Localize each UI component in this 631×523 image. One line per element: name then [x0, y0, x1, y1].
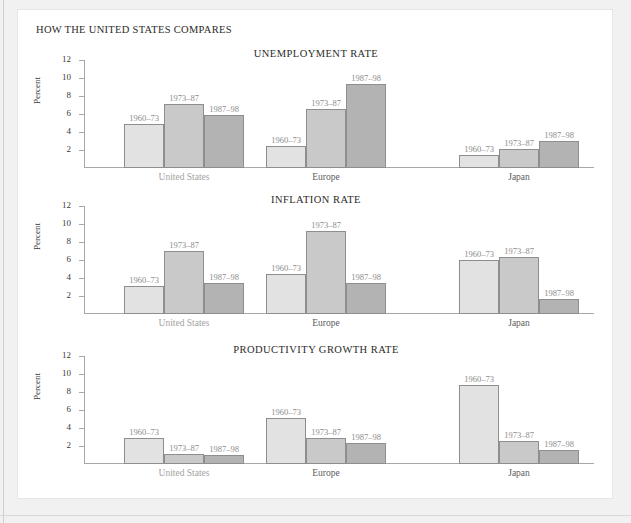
bar: 1973–87 [164, 454, 204, 464]
chart-productivity-growth-rate: PRODUCTIVITY GROWTH RATE Percent 2468101… [36, 340, 596, 480]
bar-period-label: 1987–98 [351, 73, 381, 83]
bar-period-label: 1987–98 [544, 439, 574, 449]
y-axis-tick-label: 2 [51, 289, 71, 302]
bar: 1987–98 [204, 455, 244, 464]
bar: 1987–98 [539, 299, 579, 314]
left-margin-rule [3, 0, 4, 523]
bar-period-label: 1973–87 [169, 240, 199, 250]
bar: 1987–98 [539, 450, 579, 464]
y-axis-tick-label: 4 [51, 421, 71, 434]
bar: 1987–98 [346, 443, 386, 464]
bar: 1960–73 [459, 385, 499, 464]
bar: 1960–73 [266, 146, 306, 168]
bar-period-label: 1960–73 [129, 427, 159, 437]
bar: 1973–87 [164, 104, 204, 168]
bar: 1973–87 [499, 257, 539, 314]
y-axis-tick-label: 6 [51, 107, 71, 120]
y-axis-tick-label: 12 [51, 349, 71, 362]
bar: 1973–87 [499, 149, 539, 168]
bar-period-label: 1973–87 [311, 220, 341, 230]
y-axis-tick-label: 8 [51, 235, 71, 248]
chart-inflation-rate: INFLATION RATE Percent 246810121960–7319… [36, 190, 596, 330]
x-axis-group-label: Japan [508, 318, 530, 328]
bar-period-label: 1987–98 [351, 432, 381, 442]
y-axis-label: Percent [32, 77, 42, 104]
bar-period-label: 1960–73 [271, 263, 301, 273]
bar: 1973–87 [499, 441, 539, 464]
x-axis-group-label: Europe [312, 318, 339, 328]
y-axis-tick: 6 [79, 114, 85, 115]
x-axis-group-label: United States [159, 468, 210, 478]
bar-period-label: 1960–73 [464, 144, 494, 154]
bar: 1987–98 [346, 84, 386, 168]
bar-period-label: 1973–87 [169, 443, 199, 453]
y-axis-tick: 6 [79, 260, 85, 261]
y-axis-tick: 4 [79, 428, 85, 429]
chart-title: UNEMPLOYMENT RATE [36, 48, 596, 59]
y-axis-tick: 2 [79, 446, 85, 447]
bar-period-label: 1960–73 [271, 135, 301, 145]
y-axis-tick: 2 [79, 150, 85, 151]
bar-period-label: 1973–87 [504, 246, 534, 256]
y-axis-tick-label: 12 [51, 199, 71, 212]
bar-period-label: 1987–98 [209, 444, 239, 454]
y-axis-tick: 12 [79, 60, 85, 61]
y-axis-tick-label: 8 [51, 89, 71, 102]
y-axis-tick: 10 [79, 224, 85, 225]
y-axis-tick-label: 6 [51, 403, 71, 416]
y-axis-tick-label: 8 [51, 385, 71, 398]
y-axis-label: Percent [32, 373, 42, 400]
x-axis-group-label: United States [159, 172, 210, 182]
plot-area: 246810121960–731973–871987–98United Stat… [84, 356, 594, 464]
bar-period-label: 1960–73 [129, 113, 159, 123]
page-title: HOW THE UNITED STATES COMPARES [36, 24, 232, 35]
y-axis-tick-label: 12 [51, 53, 71, 66]
bar: 1960–73 [124, 286, 164, 314]
bar: 1987–98 [204, 283, 244, 315]
bar-period-label: 1973–87 [504, 430, 534, 440]
y-axis-tick: 6 [79, 410, 85, 411]
bar: 1960–73 [459, 260, 499, 314]
y-axis-tick-label: 2 [51, 439, 71, 452]
bar: 1960–73 [124, 124, 164, 168]
bar: 1987–98 [346, 283, 386, 315]
y-axis-tick: 8 [79, 242, 85, 243]
bar: 1973–87 [164, 251, 204, 314]
x-axis-group-label: United States [159, 318, 210, 328]
y-axis-tick: 8 [79, 96, 85, 97]
x-axis-group-label: Europe [312, 172, 339, 182]
bar-period-label: 1960–73 [271, 407, 301, 417]
bar-period-label: 1960–73 [129, 275, 159, 285]
y-axis-tick-label: 2 [51, 143, 71, 156]
bar: 1960–73 [124, 438, 164, 464]
bar-period-label: 1960–73 [464, 249, 494, 259]
bar-period-label: 1987–98 [544, 130, 574, 140]
y-axis-tick-label: 10 [51, 217, 71, 230]
bar-period-label: 1973–87 [311, 98, 341, 108]
y-axis-tick-label: 4 [51, 271, 71, 284]
bar-period-label: 1973–87 [504, 138, 534, 148]
bar-period-label: 1987–98 [209, 104, 239, 114]
plot-area: 246810121960–731973–871987–98United Stat… [84, 60, 594, 168]
bottom-margin-rule [0, 515, 631, 516]
bar: 1973–87 [306, 109, 346, 168]
y-axis-tick-label: 6 [51, 253, 71, 266]
y-axis-tick: 10 [79, 78, 85, 79]
bar-period-label: 1973–87 [169, 93, 199, 103]
bar-period-label: 1987–98 [544, 288, 574, 298]
y-axis-tick: 12 [79, 206, 85, 207]
y-axis-tick-label: 10 [51, 367, 71, 380]
bar: 1960–73 [459, 155, 499, 168]
y-axis-tick: 10 [79, 374, 85, 375]
bar: 1987–98 [539, 141, 579, 168]
plot-area: 246810121960–731973–871987–98United Stat… [84, 206, 594, 314]
y-axis-tick-label: 10 [51, 71, 71, 84]
bar-period-label: 1973–87 [311, 427, 341, 437]
chart-title: PRODUCTIVITY GROWTH RATE [36, 344, 596, 355]
y-axis-tick: 12 [79, 356, 85, 357]
bar: 1973–87 [306, 231, 346, 314]
y-axis-label: Percent [32, 223, 42, 250]
x-axis-group-label: Europe [312, 468, 339, 478]
bar: 1960–73 [266, 274, 306, 315]
y-axis-tick-label: 4 [51, 125, 71, 138]
